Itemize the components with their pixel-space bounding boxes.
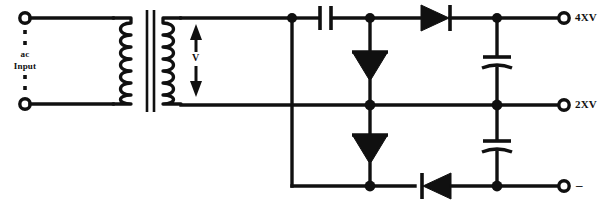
vertical-diode-1-group bbox=[352, 18, 388, 105]
junction-dot-secondary-top bbox=[287, 13, 297, 23]
diode-bottom-triangle bbox=[423, 173, 451, 199]
output-terminal-2xv[interactable] bbox=[559, 100, 569, 110]
junction-dot-right-top bbox=[492, 13, 502, 23]
top-row-components bbox=[292, 5, 560, 31]
circuit-diagram: ac Input V 4XV 2XV – bbox=[0, 0, 605, 209]
junction-dot-right-center bbox=[492, 100, 503, 111]
junction-dot-mid-top bbox=[365, 13, 375, 23]
transformer-primary-coil bbox=[113, 18, 131, 104]
output-label-4xv: 4XV bbox=[575, 12, 597, 23]
circuit-schematic-canvas bbox=[0, 0, 605, 209]
ac-input-label-line2: Input bbox=[4, 62, 46, 71]
diode-v1-triangle bbox=[353, 53, 387, 81]
transformer bbox=[113, 10, 181, 112]
output-terminal-4xv[interactable] bbox=[559, 13, 569, 23]
output-label-2xv: 2XV bbox=[575, 99, 597, 110]
smoothing-capacitor-2-group bbox=[482, 105, 512, 186]
secondary-wiring bbox=[181, 18, 415, 186]
junction-dot-mid-center bbox=[365, 100, 376, 111]
junction-dot-mid-bottom bbox=[365, 181, 376, 192]
secondary-voltage-label: V bbox=[192, 53, 199, 63]
output-terminals bbox=[559, 13, 569, 191]
ac-input-label-line1: ac bbox=[8, 50, 42, 59]
smoothing-capacitor-1-group bbox=[482, 18, 512, 105]
diode-top-triangle bbox=[421, 5, 449, 31]
output-terminal-negative[interactable] bbox=[559, 181, 569, 191]
junction-dots bbox=[287, 13, 502, 191]
junction-dot-right-bottom bbox=[492, 181, 503, 192]
output-label-negative: – bbox=[576, 178, 583, 191]
vertical-diode-2-group bbox=[352, 105, 388, 186]
voltage-arrow-head-up bbox=[190, 24, 202, 40]
diode-v2-triangle bbox=[353, 136, 387, 164]
voltage-arrow-head-down bbox=[190, 81, 202, 97]
transformer-secondary-coil bbox=[163, 18, 181, 104]
bottom-diode-group bbox=[422, 173, 560, 199]
